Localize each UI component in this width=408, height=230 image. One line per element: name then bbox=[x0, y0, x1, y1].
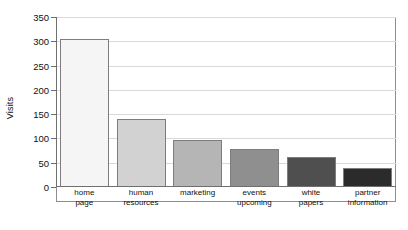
x-axis-category-label: home page bbox=[56, 188, 113, 207]
y-tick-mark bbox=[51, 163, 56, 164]
bar bbox=[173, 140, 222, 187]
y-tick-mark bbox=[51, 17, 56, 18]
y-tick-label: 250 bbox=[1, 60, 49, 71]
y-axis-line bbox=[56, 17, 57, 187]
x-axis-category-label: human resources bbox=[113, 188, 170, 207]
x-axis-category-label: white papers bbox=[283, 188, 340, 207]
plot-area bbox=[56, 17, 396, 187]
bar bbox=[287, 157, 336, 187]
y-tick-mark bbox=[51, 66, 56, 67]
bar bbox=[230, 149, 279, 187]
bar bbox=[60, 39, 109, 187]
y-tick-mark bbox=[51, 41, 56, 42]
y-tick-mark bbox=[51, 187, 56, 188]
y-tick-mark bbox=[51, 138, 56, 139]
bar bbox=[343, 168, 392, 187]
y-tick-label: 50 bbox=[1, 157, 49, 168]
x-axis-category-label: marketing bbox=[169, 188, 226, 198]
x-axis-category-label: events upcoming bbox=[226, 188, 283, 207]
y-axis-tick-labels: 050100150200250300350 bbox=[0, 0, 49, 230]
y-tick-label: 350 bbox=[1, 12, 49, 23]
y-tick-label: 100 bbox=[1, 133, 49, 144]
y-tick-mark bbox=[51, 114, 56, 115]
y-tick-label: 300 bbox=[1, 36, 49, 47]
y-tick-label: 200 bbox=[1, 84, 49, 95]
x-axis-category-labels: home pagehuman resourcesmarketingevents … bbox=[56, 188, 396, 201]
y-tick-mark bbox=[51, 90, 56, 91]
y-tick-label: 0 bbox=[1, 182, 49, 193]
x-axis-category-label: partner information bbox=[339, 188, 396, 207]
y-tick-label: 150 bbox=[1, 109, 49, 120]
x-axis-line bbox=[56, 186, 396, 187]
bar-chart-figure: Visits 050100150200250300350 home pagehu… bbox=[0, 0, 408, 230]
gridline bbox=[56, 17, 396, 18]
bar bbox=[117, 119, 166, 187]
